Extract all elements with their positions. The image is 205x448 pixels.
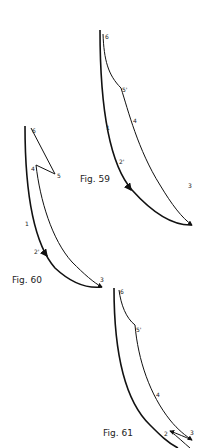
fig59-label-4: 4 — [133, 117, 137, 124]
fig59-caption: Fig. 59 — [80, 174, 110, 184]
fig61-label-5: 5' — [136, 326, 142, 333]
fig60-curve-1 — [25, 126, 102, 287]
fig59-label-2: 2' — [119, 158, 125, 165]
fig61-label-6: 6 — [120, 288, 124, 295]
fig59-curve-1 — [100, 30, 192, 225]
fig61-curve-3-2 — [170, 431, 192, 440]
fig59-curve-6-5 — [103, 34, 121, 88]
diagram-canvas: 6 5' 4 1 2' 3 Fig. 59 6 4 5 1 2' 3 Fig. … — [0, 0, 205, 448]
figure-59: 6 5' 4 1 2' 3 Fig. 59 — [80, 30, 192, 225]
fig61-label-4: 4 — [156, 391, 160, 398]
fig61-label-3: 3 — [190, 429, 194, 436]
fig60-label-4: 4 — [31, 165, 35, 172]
fig60-label-5: 5 — [57, 172, 61, 179]
fig61-curve-5-4-3 — [135, 325, 192, 440]
fig61-label-2: 2 — [164, 430, 168, 437]
fig60-label-2: 2' — [34, 248, 40, 255]
fig61-caption: Fig. 61 — [103, 428, 133, 438]
fig60-label-6: 6 — [32, 127, 36, 134]
fig59-label-1: 1 — [106, 124, 110, 131]
fig59-label-6: 6 — [105, 33, 109, 40]
fig61-curve-1 — [114, 288, 178, 448]
fig60-label-3: 3 — [100, 276, 104, 283]
fig60-caption: Fig. 60 — [12, 275, 42, 285]
fig59-label-5: 5' — [122, 86, 128, 93]
fig59-curve-5-4-3 — [121, 88, 192, 225]
fig60-label-1: 1 — [25, 220, 29, 227]
fig61-curve-6-5 — [119, 290, 135, 325]
fig59-label-3: 3 — [188, 182, 192, 189]
figure-60: 6 4 5 1 2' 3 Fig. 60 — [12, 126, 104, 287]
figure-61: 6 5' 4 2 3 Fig. 61 — [103, 288, 194, 448]
